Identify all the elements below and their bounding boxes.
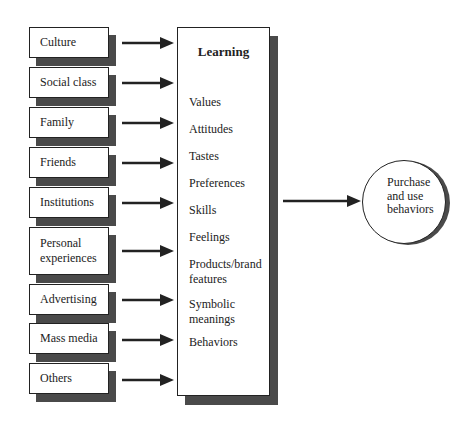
- learning-item: Skills: [189, 203, 216, 218]
- source-box-institutions: Institutions: [29, 187, 109, 218]
- source-label: Family: [40, 115, 74, 130]
- source-label: Others: [40, 371, 72, 386]
- source-box-social-class: Social class: [29, 67, 109, 98]
- arrow-right-icon: [122, 197, 174, 209]
- learning-item: Behaviors: [189, 335, 238, 350]
- arrow-right-icon: [122, 77, 174, 89]
- arrow-right-icon: [122, 117, 174, 129]
- learning-item: Values: [189, 95, 221, 110]
- source-label: Personal experiences: [40, 236, 106, 266]
- source-box-advertising: Advertising: [29, 284, 109, 315]
- source-box-culture: Culture: [29, 27, 109, 58]
- source-box-family: Family: [29, 107, 109, 138]
- arrow-right-icon: [122, 37, 174, 49]
- source-label: Advertising: [40, 292, 97, 307]
- source-label: Mass media: [40, 331, 98, 346]
- arrow-right-icon: [122, 245, 174, 257]
- arrow-right-icon: [122, 374, 174, 386]
- source-label: Culture: [40, 35, 76, 50]
- source-box-mass-media: Mass media: [29, 323, 109, 354]
- arrow-right-icon: [122, 157, 174, 169]
- learning-item: Products/brand features: [189, 257, 267, 287]
- outcome-label: Purchase and use behaviors: [387, 176, 439, 217]
- learning-item: Symbolic meanings: [189, 297, 249, 327]
- learning-item: Feelings: [189, 230, 230, 245]
- learning-item: Attitudes: [189, 122, 233, 137]
- arrow-right-icon: [283, 195, 361, 207]
- source-label: Friends: [40, 155, 76, 170]
- learning-title: Learning: [178, 44, 269, 60]
- outcome-circle: Purchase and use behaviors: [362, 160, 446, 244]
- source-label: Social class: [40, 75, 96, 90]
- arrow-right-icon: [122, 334, 174, 346]
- learning-item: Preferences: [189, 176, 245, 191]
- learning-box: Learning Values Attitudes Tastes Prefere…: [177, 27, 270, 396]
- learning-item: Tastes: [189, 149, 219, 164]
- source-box-others: Others: [29, 363, 109, 394]
- arrow-right-icon: [122, 294, 174, 306]
- source-box-friends: Friends: [29, 147, 109, 178]
- source-label: Institutions: [40, 195, 94, 210]
- source-box-personal-experiences: Personal experiences: [29, 227, 109, 275]
